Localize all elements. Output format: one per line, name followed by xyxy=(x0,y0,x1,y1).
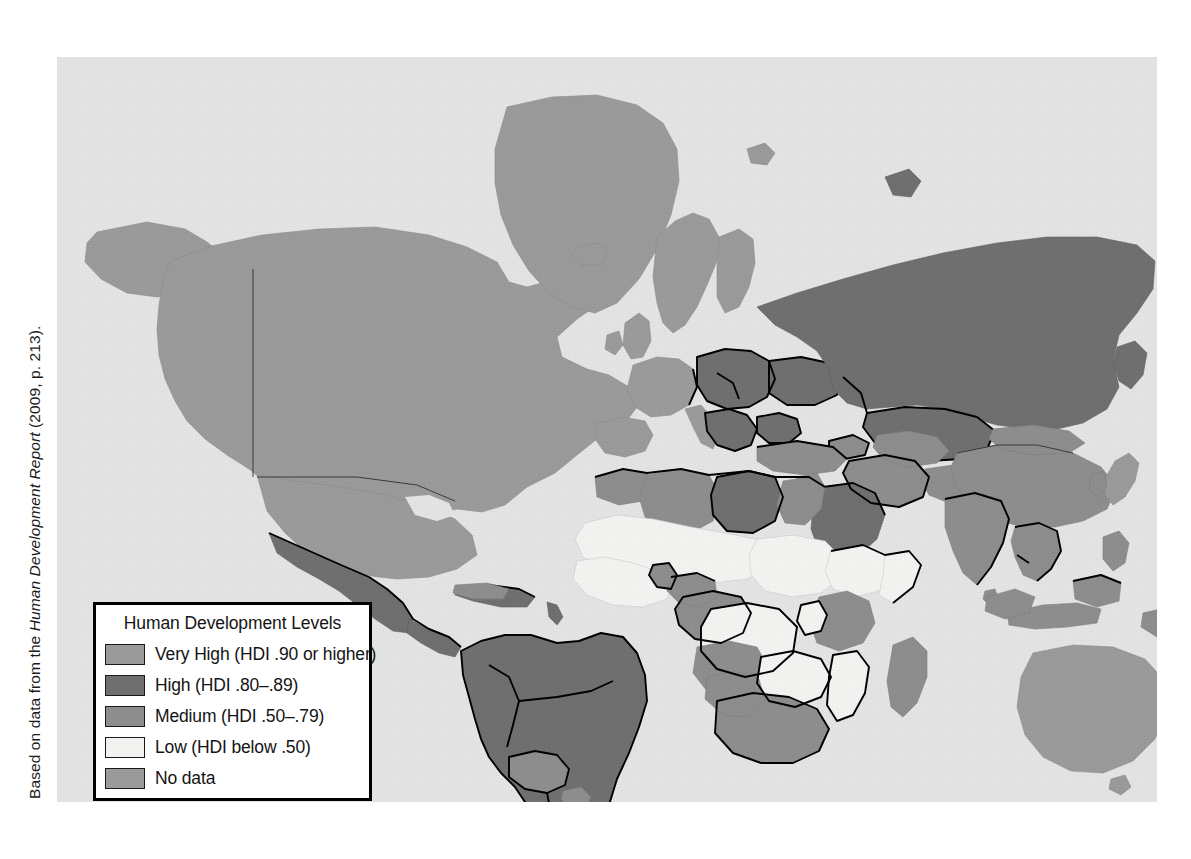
region-svalbard xyxy=(747,143,775,165)
region-lesser-antilles xyxy=(547,602,563,625)
legend-title: Human Development Levels xyxy=(96,613,369,634)
region-japan xyxy=(1105,453,1139,505)
region-western-europe xyxy=(627,357,697,417)
legend-item-low: Low (HDI below .50) xyxy=(96,732,369,763)
region-indochina xyxy=(1011,523,1061,581)
source-caption-suffix: (2009, p. 213). xyxy=(26,326,43,433)
source-caption: Based on data from the Human Development… xyxy=(0,0,46,859)
region-india xyxy=(945,493,1009,585)
region-philippines xyxy=(1103,531,1129,571)
region-tasmania xyxy=(1109,775,1131,795)
region-australia xyxy=(1017,645,1157,773)
legend-swatch-low xyxy=(105,737,145,758)
region-greenland xyxy=(495,95,679,313)
legend-swatch-medium xyxy=(105,706,145,727)
region-ireland xyxy=(605,331,623,355)
region-british-isles xyxy=(623,313,651,359)
legend-swatch-no-data xyxy=(105,768,145,789)
region-mozambique xyxy=(827,651,869,721)
region-central-america xyxy=(407,619,461,657)
source-caption-prefix: Based on data from the xyxy=(26,631,43,799)
region-oceania xyxy=(1017,645,1157,795)
region-russia-asia xyxy=(757,237,1155,461)
legend-item-no-data: No data xyxy=(96,763,369,794)
region-south-america xyxy=(461,633,647,802)
region-novaya-zemlya xyxy=(885,169,921,197)
region-madagascar xyxy=(887,637,927,717)
legend-label-low: Low (HDI below .50) xyxy=(155,737,311,758)
legend-label-medium: Medium (HDI .50–.79) xyxy=(155,706,324,727)
legend-item-medium: Medium (HDI .50–.79) xyxy=(96,701,369,732)
legend-label-no-data: No data xyxy=(155,768,215,789)
region-asia xyxy=(945,425,1157,637)
map-legend: Human Development Levels Very High (HDI … xyxy=(93,602,372,801)
legend-item-very-high: Very High (HDI .90 or higher) xyxy=(96,639,369,670)
region-png xyxy=(1141,607,1157,637)
region-finland xyxy=(717,229,755,313)
region-iberia xyxy=(595,417,653,457)
legend-label-high: High (HDI .80–.89) xyxy=(155,675,298,696)
legend-label-very-high: Very High (HDI .90 or higher) xyxy=(155,644,376,665)
legend-swatch-high xyxy=(105,675,145,696)
legend-item-high: High (HDI .80–.89) xyxy=(96,670,369,701)
legend-swatch-very-high xyxy=(105,644,145,665)
source-caption-title: Human Development Report xyxy=(26,432,43,631)
